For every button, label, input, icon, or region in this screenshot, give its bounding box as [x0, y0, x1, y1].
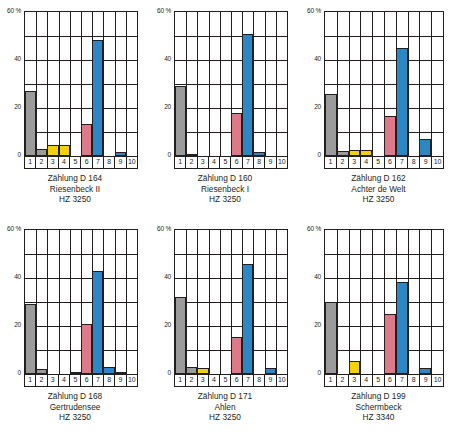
- gridline-horizontal: [175, 254, 287, 255]
- bar: [242, 34, 253, 156]
- gridline-horizontal: [25, 60, 137, 61]
- x-axis-tick-label: 9: [115, 156, 126, 168]
- chart-code: HZ 3250: [150, 194, 300, 205]
- y-axis-tick-label: 40: [300, 273, 321, 280]
- x-axis-tick-label: 4: [59, 374, 70, 386]
- gridline-horizontal: [175, 60, 287, 61]
- y-axis-tick-label: 20: [150, 321, 171, 328]
- plot-area: [324, 11, 444, 157]
- bar: [175, 86, 186, 156]
- chart-subtitle: Gertrudensee: [0, 402, 150, 413]
- bar: [175, 297, 186, 374]
- x-axis-tick-label: 10: [127, 374, 137, 386]
- x-axis-tick-label: 10: [127, 156, 137, 168]
- x-axis-tick-label: 4: [209, 374, 220, 386]
- chart-subtitle: Achter de Welt: [300, 184, 457, 195]
- x-axis-tick-label: 9: [420, 156, 432, 168]
- chart-title: Zählung D 168: [0, 391, 150, 402]
- x-axis-tick-label: 9: [420, 374, 432, 386]
- x-axis-tick-label: 8: [254, 156, 265, 168]
- chart-code: HZ 3250: [300, 194, 457, 205]
- x-axis-tick-label: 6: [231, 156, 242, 168]
- y-axis-tick-label: 40: [150, 273, 171, 280]
- bar: [419, 139, 431, 156]
- y-axis-tick-label: 20: [300, 103, 321, 110]
- x-axis-tick-label: 4: [361, 374, 373, 386]
- chart-panel: 60 %4020012345678910Zählung D 171AhlenHZ…: [150, 218, 300, 441]
- chart-code: HZ 3250: [0, 412, 150, 423]
- bar: [231, 337, 242, 374]
- chart-subtitle: Riesenbeck I: [150, 184, 300, 195]
- bar: [92, 40, 103, 156]
- x-axis-tick-label: 5: [70, 374, 81, 386]
- gridline-horizontal: [25, 84, 137, 85]
- chart-caption: Zählung D 171AhlenHZ 3250: [150, 391, 300, 423]
- chart-caption: Zählung D 168GertrudenseeHZ 3250: [0, 391, 150, 423]
- x-axis-tick-label: 3: [198, 374, 209, 386]
- x-axis-tick-label: 1: [325, 156, 337, 168]
- y-axis-tick-label: 40: [300, 55, 321, 62]
- gridline-horizontal: [175, 278, 287, 279]
- x-axis-tick-label: 6: [81, 156, 92, 168]
- bar: [81, 324, 92, 374]
- x-axis-tick-label: 3: [48, 156, 59, 168]
- chart-panel: 60 %4020012345678910Zählung D 164Riesenb…: [0, 0, 150, 218]
- x-axis: 12345678910: [24, 156, 138, 169]
- x-axis-tick-label: 3: [349, 156, 361, 168]
- plot-area: [174, 11, 288, 157]
- x-axis-tick-label: 1: [175, 156, 186, 168]
- x-axis-tick-label: 5: [220, 156, 231, 168]
- gridline-horizontal: [175, 108, 287, 109]
- x-axis: 12345678910: [174, 156, 288, 169]
- y-axis-tick-label: 20: [0, 103, 21, 110]
- x-axis-tick-label: 10: [277, 156, 287, 168]
- bar: [92, 271, 103, 374]
- x-axis-tick-label: 6: [385, 374, 397, 386]
- bar: [242, 264, 253, 374]
- x-axis-tick-label: 2: [36, 156, 47, 168]
- y-axis-tick-label: 20: [0, 321, 21, 328]
- gridline-horizontal: [25, 36, 137, 37]
- x-axis-tick-label: 6: [81, 374, 92, 386]
- y-axis-tick-label: 60 %: [0, 225, 21, 232]
- gridline-horizontal: [325, 108, 443, 109]
- gridline-horizontal: [325, 60, 443, 61]
- y-axis-tick-label: 0: [300, 151, 321, 158]
- x-axis-tick-label: 8: [104, 156, 115, 168]
- chart-code: HZ 3250: [0, 194, 150, 205]
- chart-subtitle: Riesenbeck II: [0, 184, 150, 195]
- bar: [25, 91, 36, 156]
- chart-caption: Zählung D 164Riesenbeck IIHZ 3250: [0, 173, 150, 205]
- x-axis-tick-label: 4: [361, 156, 373, 168]
- x-axis-tick-label: 2: [337, 374, 349, 386]
- chart-subtitle: Schermbeck: [300, 402, 457, 413]
- chart-code: HZ 3250: [150, 412, 300, 423]
- x-axis: 12345678910: [24, 374, 138, 387]
- x-axis-tick-label: 1: [25, 374, 36, 386]
- x-axis-tick-label: 10: [277, 374, 287, 386]
- plot-area: [24, 229, 138, 375]
- gridline-horizontal: [25, 302, 137, 303]
- x-axis-tick-label: 8: [408, 374, 420, 386]
- x-axis-tick-label: 4: [209, 156, 220, 168]
- x-axis-tick-label: 3: [349, 374, 361, 386]
- x-axis-tick-label: 7: [243, 156, 254, 168]
- x-axis-tick-label: 2: [186, 156, 197, 168]
- x-axis-tick-label: 9: [265, 156, 276, 168]
- x-axis-tick-label: 5: [373, 156, 385, 168]
- gridline-horizontal: [175, 36, 287, 37]
- chart-code: HZ 3340: [300, 412, 457, 423]
- x-axis-tick-label: 6: [231, 374, 242, 386]
- x-axis-tick-label: 7: [396, 156, 408, 168]
- y-axis-tick-label: 0: [0, 151, 21, 158]
- y-axis-tick-label: 0: [0, 369, 21, 376]
- chart-panel: 60 %4020012345678910Zählung D 160Riesenb…: [150, 0, 300, 218]
- bar: [384, 314, 396, 374]
- gridline-horizontal: [325, 254, 443, 255]
- y-axis-tick-label: 20: [150, 103, 171, 110]
- x-axis-tick-label: 8: [104, 374, 115, 386]
- x-axis-tick-label: 8: [254, 374, 265, 386]
- bar: [25, 304, 36, 374]
- x-axis-tick-label: 1: [175, 374, 186, 386]
- y-axis-tick-label: 60 %: [150, 225, 171, 232]
